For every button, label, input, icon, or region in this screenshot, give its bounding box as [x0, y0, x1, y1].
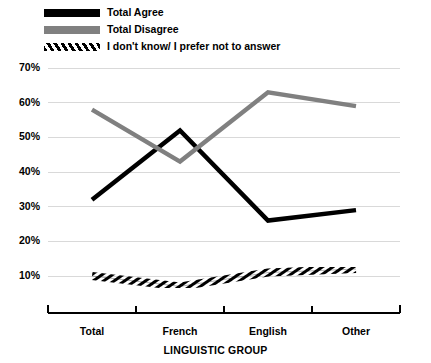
legend-swatch-solid-black-icon: [44, 9, 100, 17]
x-tick-label-english: English: [228, 325, 308, 337]
y-tick-label: 40%: [6, 166, 40, 177]
y-tick-label: 10%: [6, 270, 40, 281]
legend-item-dont-know: I don't know/ I prefer not to answer: [44, 38, 424, 55]
chart-series-layer: [92, 92, 356, 286]
legend-item-total-agree: Total Agree: [44, 4, 424, 21]
chart-x-axis-title: LINGUISTIC GROUP: [0, 344, 431, 356]
legend-label-dont-know: I don't know/ I prefer not to answer: [107, 41, 280, 52]
y-tick-label: 30%: [6, 201, 40, 212]
series-line-2: [92, 269, 356, 286]
chart-legend: Total Agree Total Disagree I don't know/…: [44, 4, 424, 55]
x-tick-label-french: French: [140, 325, 220, 337]
y-tick-label: 60%: [6, 97, 40, 108]
x-tick-label-other: Other: [316, 325, 396, 337]
legend-label-total-agree: Total Agree: [107, 7, 164, 18]
y-tick-label: 50%: [6, 131, 40, 142]
legend-swatch-solid-gray-icon: [44, 26, 100, 34]
y-tick-label: 70%: [6, 62, 40, 73]
x-tick-label-total: Total: [52, 325, 132, 337]
chart-canvas: [0, 55, 431, 325]
legend-label-total-disagree: Total Disagree: [107, 24, 179, 35]
chart-gridlines: [48, 68, 400, 276]
legend-item-total-disagree: Total Disagree: [44, 21, 424, 38]
chart-plot-area: 10%20%30%40%50%60%70%: [0, 55, 431, 325]
y-tick-label: 20%: [6, 235, 40, 246]
legend-swatch-hatched-icon: [44, 43, 100, 51]
